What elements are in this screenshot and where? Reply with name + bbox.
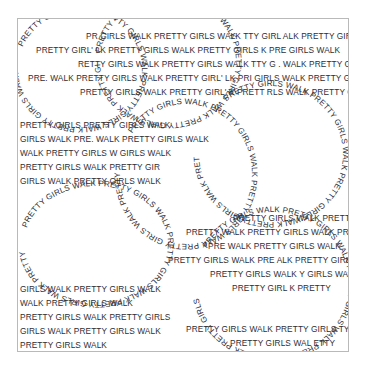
block-line: PRETTY GIRLS WALK PRETTY GIRL' K PRETT R…	[80, 87, 349, 97]
block-line: PR GIRLS WALK PRETTY GIRLS WALK TTY GIRL…	[86, 31, 349, 41]
poster-canvas: PRETTY GIRLS WALK PRETTY GIRLS WALK PRET…	[0, 0, 366, 371]
block-line: PRETTY GIRLS WALK PRE ALK PRETTY GIRLS	[168, 255, 349, 265]
block-line: PRE. WALK PRETTY GIRLS WALK PRETTY GIRL'…	[28, 73, 349, 83]
block-line: WALK PRETTY GIRLS W GIRLS WALK	[20, 148, 172, 158]
block-line: PRETTY GIRLS WALK Y GIRLS WALK	[210, 269, 349, 279]
block-line: PRETTY GIRL K PRETTY	[232, 283, 331, 293]
block-line: GIRLS WALK PRETTY GIRLS WALK	[20, 176, 161, 186]
block-line: PRETTY GIRLS WALK PRETTY GIRLS	[20, 312, 171, 322]
block-line: PRETTY WALK PRETTY GIRLS WALK PRETTY	[186, 227, 349, 237]
block-line: RETTY GIRLS WALK PRETTY GIRLS WALK TTY G…	[78, 59, 349, 69]
block-text-layer: PR GIRLS WALK PRETTY GIRLS WALK TTY GIRL…	[18, 19, 349, 352]
artboard: PRETTY GIRLS WALK PRETTY GIRLS WALK PRET…	[17, 18, 349, 352]
block-line: PRETTY GIRLS PRETTY GIRLS WALK	[20, 120, 171, 130]
text-block-mid-left: PRETTY GIRLS PRETTY GIRLS WALK GIRLS WAL…	[20, 120, 209, 186]
text-block-mid-right: PRETTY GIRLS WALK PRETTY GIRLS PRETTY WA…	[168, 213, 349, 293]
text-block-bottom-left: GIRLS WALK PRETTY GIRLS WALK WALK PRETTY…	[20, 284, 171, 350]
block-line: PRETTY GIRLS WALK PRETTY GIRLS TY	[186, 324, 349, 334]
block-line: PRETTY GIRLS WALK PRETTY GIRLS	[233, 213, 349, 223]
block-line: GIRLS WALK PRE. WALK PRETTY GIRLS WALK	[20, 134, 209, 144]
block-line: PRETTY GIRL' LK PRETTY GIRLS WALK PRETTY…	[36, 45, 341, 55]
text-block-bottom-right: PRETTY GIRLS WALK PRETTY GIRLS TY PRETTY…	[186, 324, 349, 348]
block-line: GIRLS WALK PRETTY GIRLS WALK	[20, 326, 161, 336]
text-block-top: PR GIRLS WALK PRETTY GIRLS WALK TTY GIRL…	[28, 31, 349, 97]
block-line: PRETTY GIRLS WALK PRETTY GIR	[20, 162, 160, 172]
block-line: PRETTY GIRLS WALK	[20, 340, 107, 350]
block-line: WALK PRETTY GIRLS WALK	[20, 298, 133, 308]
block-line: GIRLS WALK PRETTY GIRLS WALK	[20, 284, 161, 294]
block-line: PRETTY GIRLS WAL ETTY	[230, 338, 335, 348]
block-line: PRE WALK PRETTY GIRLS WALK	[208, 241, 341, 251]
